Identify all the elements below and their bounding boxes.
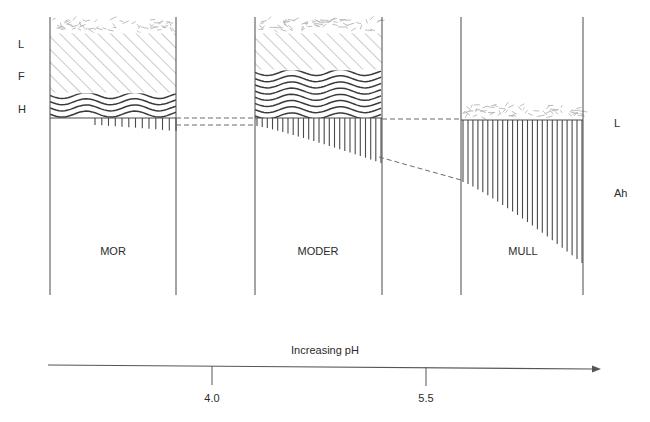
- horizon-l-mor: [53, 17, 175, 34]
- horizon-f-mor: [50, 33, 176, 93]
- root-ticks-mull: [463, 120, 582, 263]
- horizon-f-moder: [255, 33, 382, 70]
- horizon-l-moder: [259, 17, 384, 33]
- axis-caption: Increasing pH: [291, 344, 359, 356]
- column-label-mull: MULL: [508, 245, 537, 257]
- root-ticks-moder: [257, 118, 381, 163]
- horizon-label-left-h: H: [18, 103, 26, 115]
- horizon-label-left-l: L: [18, 38, 24, 50]
- horizon-h-mor: [50, 93, 176, 118]
- axis-tick-label-4.0: 4.0: [204, 392, 219, 404]
- horizon-l-mull: [463, 102, 587, 119]
- horizon-label-right-l: L: [614, 117, 620, 129]
- connector-moder-mull-slope: [379, 157, 461, 180]
- column-label-moder: MODER: [298, 245, 339, 257]
- root-ticks-mor: [95, 118, 176, 131]
- axis-tick-label-5.5: 5.5: [418, 392, 433, 404]
- horizon-label-left-f: F: [18, 70, 25, 82]
- horizon-label-right-ah: Ah: [614, 187, 627, 199]
- horizon-h-moder: [255, 70, 381, 119]
- humus-form-diagram: LFHLAhMORMODERMULLIncreasing pH4.05.5: [0, 0, 650, 422]
- column-label-mor: MOR: [100, 245, 126, 257]
- diagram-canvas: [0, 0, 650, 422]
- ph-axis: [48, 365, 601, 386]
